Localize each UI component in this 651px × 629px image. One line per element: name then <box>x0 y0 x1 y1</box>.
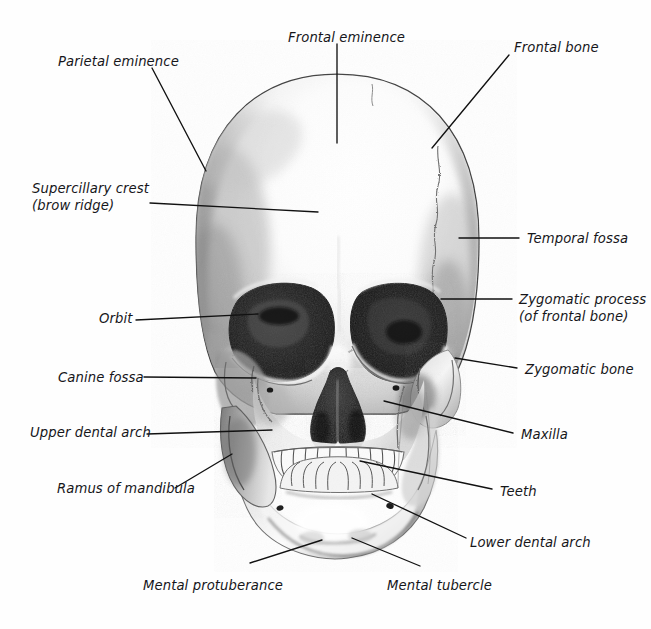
label-frontal-eminence: Frontal eminence <box>288 30 405 47</box>
label-text-line2: (of frontal bone) <box>519 309 628 324</box>
label-upper-dental-arch: Upper dental arch <box>30 425 151 442</box>
label-lower-dental-arch: Lower dental arch <box>470 535 591 552</box>
label-text: Upper dental arch <box>30 425 151 440</box>
label-frontal-bone: Frontal bone <box>514 40 599 57</box>
label-mental-tubercle: Mental tubercle <box>387 578 492 595</box>
label-text: Frontal eminence <box>288 30 405 45</box>
label-text: Frontal bone <box>514 40 599 55</box>
label-temporal-fossa: Temporal fossa <box>527 231 628 248</box>
label-text: Zygomatic bone <box>525 362 634 377</box>
figure-canvas: Parietal eminenceFrontal eminenceFrontal… <box>0 0 651 629</box>
label-orbit: Orbit <box>99 311 133 328</box>
label-parietal-eminence: Parietal eminence <box>58 54 179 71</box>
leader-parietal-eminence <box>152 68 206 171</box>
label-teeth: Teeth <box>500 484 537 501</box>
label-text: Temporal fossa <box>527 231 628 246</box>
lower-teeth <box>280 457 398 498</box>
leader-zygomatic-bone <box>455 358 517 368</box>
label-maxilla: Maxilla <box>521 427 568 444</box>
label-text-line2: (brow ridge) <box>32 198 114 213</box>
label-text: Supercillary crest <box>32 181 149 196</box>
label-zygomatic-bone: Zygomatic bone <box>525 362 634 379</box>
leader-frontal-bone <box>432 55 509 148</box>
label-text: Maxilla <box>521 427 568 442</box>
label-text: Lower dental arch <box>470 535 591 550</box>
label-canine-fossa: Canine fossa <box>58 370 144 387</box>
label-text: Mental tubercle <box>387 578 492 593</box>
label-text: Zygomatic process <box>519 292 646 307</box>
label-text: Orbit <box>99 311 133 326</box>
label-text: Mental protuberance <box>143 578 283 593</box>
label-zygomatic-process: Zygomatic process(of frontal bone) <box>519 292 646 325</box>
label-text: Teeth <box>500 484 537 499</box>
label-text: Parietal eminence <box>58 54 179 69</box>
label-ramus-of-mandibula: Ramus of mandibula <box>57 481 195 498</box>
label-text: Ramus of mandibula <box>57 481 195 496</box>
label-text: Canine fossa <box>58 370 144 385</box>
label-supercillary-crest: Supercillary crest(brow ridge) <box>32 181 149 214</box>
label-mental-protuberance: Mental protuberance <box>143 578 283 595</box>
